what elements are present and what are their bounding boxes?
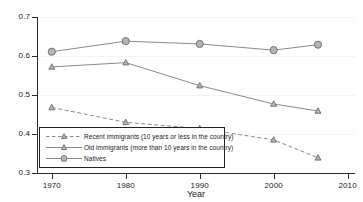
chart-legend: Recent immigrants (10 years or less in t… xyxy=(39,127,225,168)
chart-figure: 0.30.40.50.60.7 19701980199020002010 Rec… xyxy=(0,0,363,202)
legend-marker-triangle-icon xyxy=(44,142,84,153)
legend-marker-circle-icon xyxy=(44,153,84,164)
x-tick-mark xyxy=(200,174,201,179)
data-point xyxy=(270,47,277,54)
data-point xyxy=(196,40,203,47)
data-point xyxy=(314,41,321,48)
legend-label: Recent immigrants (10 years or less in t… xyxy=(84,131,234,142)
data-point xyxy=(48,48,55,55)
y-tick-label: 0.4 xyxy=(10,129,30,138)
x-tick-mark xyxy=(126,174,127,179)
x-tick-mark xyxy=(348,174,349,179)
y-tick-mark xyxy=(32,173,37,174)
x-axis-title: Year xyxy=(37,189,355,199)
series-2 xyxy=(48,38,321,56)
data-point xyxy=(122,38,129,45)
series-1 xyxy=(49,59,321,113)
y-tick-label: 0.3 xyxy=(10,168,30,177)
x-tick-mark xyxy=(52,174,53,179)
x-axis-line xyxy=(37,173,355,174)
legend-label: Old immigrants (more than 10 years in th… xyxy=(84,142,233,153)
data-point xyxy=(49,104,55,110)
data-point xyxy=(123,59,129,65)
series-line xyxy=(52,63,318,111)
x-tick-mark xyxy=(274,174,275,179)
legend-label: Natives xyxy=(84,153,106,164)
legend-item-1: Old immigrants (more than 10 years in th… xyxy=(44,142,220,153)
series-line xyxy=(52,41,318,52)
legend-item-0: Recent immigrants (10 years or less in t… xyxy=(44,131,220,142)
y-tick-label: 0.7 xyxy=(10,12,30,21)
legend-item-2: Natives xyxy=(44,153,220,164)
legend-marker-triangle-icon xyxy=(44,131,84,142)
y-tick-label: 0.5 xyxy=(10,90,30,99)
y-tick-label: 0.6 xyxy=(10,51,30,60)
